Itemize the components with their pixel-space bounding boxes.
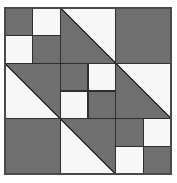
quilt-block-canvas <box>0 0 177 183</box>
cell-r2c2-four-patch <box>60 63 115 118</box>
cell-r3c1-solid-square <box>5 119 60 174</box>
cell-r1c1-four-patch <box>5 8 60 63</box>
cell-r1c3-solid-square <box>116 8 171 63</box>
cell-r2c3-half-square-triangle <box>116 63 171 118</box>
cell-r3c2-half-square-triangle <box>60 119 115 174</box>
cell-r3c3-four-patch <box>116 119 171 174</box>
cell-r1c2-half-square-triangle <box>60 8 115 63</box>
quilt-cells <box>5 8 171 174</box>
quilt-block-figure: Quilt Block Pattern <box>0 0 177 183</box>
cell-r2c1-half-square-triangle <box>5 63 60 118</box>
